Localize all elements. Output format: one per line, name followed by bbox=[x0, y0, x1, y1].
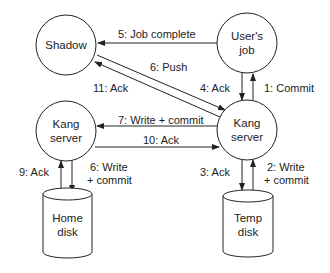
edge-2-label-1: 2: Write bbox=[267, 161, 305, 173]
node-kang-right-label-2: server bbox=[231, 131, 263, 143]
node-home-disk-label-1: Home bbox=[52, 212, 83, 224]
edge-3-label: 3: Ack bbox=[200, 166, 230, 178]
edge-2-label-2: + commit bbox=[264, 174, 309, 186]
diagram-canvas: Shadow User's job Kang server Kang serve… bbox=[0, 0, 330, 273]
edge-11-label: 11: Ack bbox=[93, 82, 129, 94]
edge-9-label: 9: Ack bbox=[19, 166, 49, 178]
edge-6-write-label-1: 6: Write bbox=[90, 161, 128, 173]
node-temp-disk: Temp disk bbox=[223, 190, 273, 257]
node-shadow: Shadow bbox=[36, 15, 96, 75]
edge-6-write-label-2: + commit bbox=[87, 174, 132, 186]
edge-4-label: 4: Ack bbox=[200, 82, 230, 94]
node-temp-disk-label-1: Temp bbox=[234, 212, 262, 224]
node-kang-left-label-1: Kang bbox=[53, 118, 80, 130]
node-kang-right-label-1: Kang bbox=[234, 117, 261, 129]
edge-6-push-label: 6: Push bbox=[150, 61, 187, 73]
edge-10-label: 10: Ack bbox=[143, 134, 180, 146]
node-users-job: User's job bbox=[217, 13, 277, 73]
node-home-disk: Home disk bbox=[43, 188, 92, 258]
node-kang-server-left: Kang server bbox=[36, 101, 96, 161]
node-kang-left-label-2: server bbox=[50, 132, 82, 144]
edge-7-label: 7: Write + commit bbox=[118, 114, 204, 126]
node-shadow-label: Shadow bbox=[45, 39, 87, 51]
edge-1-label: 1: Commit bbox=[264, 82, 314, 94]
node-home-disk-label-2: disk bbox=[57, 226, 78, 238]
node-users-job-label-1: User's bbox=[231, 30, 263, 42]
node-kang-server-right: Kang server bbox=[217, 100, 277, 160]
edge-5-label: 5: Job complete bbox=[118, 28, 196, 40]
node-users-job-label-2: job bbox=[238, 44, 254, 56]
node-temp-disk-label-2: disk bbox=[238, 226, 259, 238]
